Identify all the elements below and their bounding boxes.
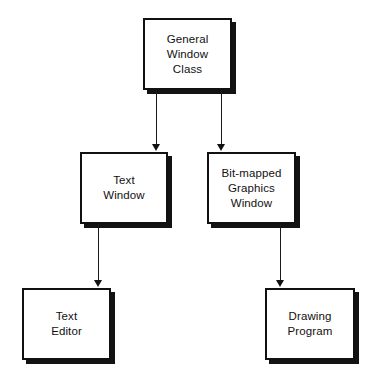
edge-line — [98, 224, 99, 280]
arrowhead-icon — [276, 280, 284, 287]
edge-line — [156, 90, 157, 144]
arrowhead-icon — [152, 144, 160, 151]
node-drawing-program: Drawing Program — [265, 288, 355, 360]
arrowhead-icon — [217, 144, 225, 151]
node-text-window: Text Window — [80, 152, 168, 224]
node-label: General Window Class — [167, 32, 209, 77]
arrowhead-icon — [94, 280, 102, 287]
node-bit-mapped-graphics-window: Bit-mapped Graphics Window — [207, 152, 296, 224]
edge-line — [221, 90, 222, 144]
node-label: Text Editor — [51, 309, 82, 339]
node-label: Text Window — [103, 173, 145, 203]
node-general-window-class: General Window Class — [143, 18, 232, 90]
node-label: Bit-mapped Graphics Window — [222, 166, 282, 211]
diagram-canvas: General Window Class Text Window Bit-map… — [0, 0, 376, 380]
node-text-editor: Text Editor — [22, 288, 111, 360]
edge-line — [280, 224, 281, 280]
node-label: Drawing Program — [288, 309, 333, 339]
